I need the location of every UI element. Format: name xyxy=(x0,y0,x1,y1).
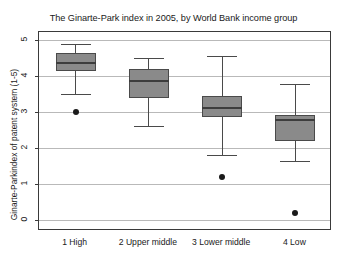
outlier-point xyxy=(292,210,298,216)
lower-whisker-cap xyxy=(61,94,91,95)
y-axis-tick-label: 4 xyxy=(19,69,29,81)
outlier-point xyxy=(73,109,79,115)
outlier-point xyxy=(219,174,225,180)
lower-whisker-cap xyxy=(280,161,310,162)
lower-whisker-line xyxy=(295,141,296,161)
y-axis-tick-label: 2 xyxy=(19,141,29,153)
upper-whisker-line xyxy=(75,44,76,53)
x-axis-tick-label: 3 Lower middle xyxy=(185,237,258,247)
box-plot-group xyxy=(259,32,332,229)
upper-whisker-cap xyxy=(134,58,164,59)
upper-whisker-line xyxy=(222,56,223,96)
y-axis-tick-label: 5 xyxy=(19,33,29,45)
median-line xyxy=(275,119,315,121)
lower-whisker-line xyxy=(75,71,76,94)
median-line xyxy=(56,62,96,64)
upper-whisker-cap xyxy=(280,84,310,85)
x-axis-tick-label: 1 High xyxy=(38,237,111,247)
upper-whisker-cap xyxy=(61,44,91,45)
median-line xyxy=(129,80,169,82)
box-plot-group xyxy=(39,32,112,229)
lower-whisker-cap xyxy=(207,155,237,156)
median-line xyxy=(202,107,242,109)
upper-whisker-line xyxy=(148,58,149,69)
y-axis-tick-label: 3 xyxy=(19,105,29,117)
lower-whisker-line xyxy=(222,117,223,155)
x-axis-tick-label: 2 Upper middle xyxy=(111,237,184,247)
lower-whisker-cap xyxy=(134,126,164,127)
lower-whisker-line xyxy=(148,98,149,127)
box-plot-group xyxy=(112,32,185,229)
box-plot-group xyxy=(186,32,259,229)
y-axis-tick-label: 0 xyxy=(19,213,29,225)
x-axis-tick-label: 4 Low xyxy=(258,237,331,247)
plot-inner: 012345 xyxy=(39,32,330,229)
box-plot-figure: The Ginarte-Park index in 2005, by World… xyxy=(0,0,347,264)
box-iqr-rect xyxy=(129,69,169,98)
chart-title: The Ginarte-Park index in 2005, by World… xyxy=(0,13,347,23)
upper-whisker-line xyxy=(295,84,296,115)
upper-whisker-cap xyxy=(207,56,237,57)
y-axis-tick-label: 1 xyxy=(19,177,29,189)
plot-area: 012345 xyxy=(38,31,331,230)
